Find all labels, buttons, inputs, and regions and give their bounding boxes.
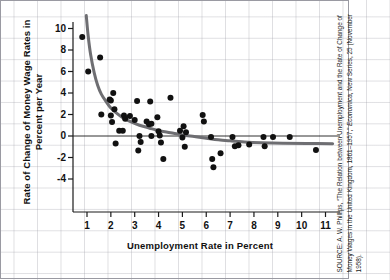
scatter-series <box>79 34 319 170</box>
data-point <box>210 164 216 170</box>
data-point <box>167 95 173 101</box>
data-point <box>85 69 91 75</box>
data-point <box>127 113 133 119</box>
x-tick-label: 10 <box>293 220 311 231</box>
y-tick-label: -4 <box>44 173 66 184</box>
data-point <box>134 98 140 104</box>
x-tick-label: 2 <box>102 220 120 231</box>
data-point <box>79 34 85 40</box>
data-point <box>113 141 119 147</box>
data-point <box>287 134 293 140</box>
x-tick-label: 1 <box>78 220 96 231</box>
data-point <box>132 117 138 123</box>
data-point <box>108 113 114 119</box>
data-point <box>262 143 268 149</box>
data-point <box>181 123 187 129</box>
data-point <box>229 134 235 140</box>
data-point <box>160 156 166 162</box>
data-point <box>270 134 276 140</box>
data-point <box>235 142 241 148</box>
x-tick-label: 7 <box>221 220 239 231</box>
x-axis-title: Unemployment Rate in Percent <box>74 240 326 251</box>
y-axis-title: Rate of Change of Money Wage Rates in Pe… <box>21 17 45 207</box>
source-journal: Economica <box>345 94 352 126</box>
x-tick-label: 9 <box>269 220 287 231</box>
y-tick-label: 8 <box>44 44 66 55</box>
data-point <box>148 121 154 127</box>
data-point <box>98 112 104 118</box>
data-point <box>183 129 189 135</box>
x-tick-label: 8 <box>245 220 263 231</box>
y-tick-label: 2 <box>44 109 66 120</box>
data-point <box>182 144 188 150</box>
x-tick-label: 3 <box>126 220 144 231</box>
data-point <box>148 133 154 139</box>
data-point <box>200 112 206 118</box>
x-tick-label: 11 <box>317 220 335 231</box>
data-point <box>179 135 185 141</box>
data-point <box>154 114 160 120</box>
data-point <box>201 118 207 124</box>
data-point <box>313 147 319 153</box>
data-point <box>260 134 266 140</box>
data-point <box>97 55 103 61</box>
data-point <box>108 98 114 104</box>
data-point <box>136 133 142 139</box>
data-point <box>111 106 117 112</box>
data-point <box>218 150 224 156</box>
y-tick-label: -2 <box>44 152 66 163</box>
data-point <box>147 99 153 105</box>
phillips-curve-figure: 1086420-2-41234567891011 Rate of Change … <box>0 0 390 280</box>
data-point <box>208 134 214 140</box>
x-tick-label: 6 <box>197 220 215 231</box>
data-point <box>135 148 141 154</box>
data-point <box>109 119 115 125</box>
y-tick-label: 0 <box>44 130 66 141</box>
x-tick-label: 5 <box>173 220 191 231</box>
plot-area: 1086420-2-41234567891011 <box>0 0 349 280</box>
x-tick-label: 4 <box>150 220 168 231</box>
source-citation: SOURCE: A. W. Phillips, “The Relation be… <box>335 10 364 272</box>
y-tick-label: 4 <box>44 87 66 98</box>
data-point <box>209 156 215 162</box>
data-point <box>158 139 164 145</box>
y-tick-label: 10 <box>44 23 66 34</box>
data-point <box>246 142 252 148</box>
data-point <box>110 90 116 96</box>
fitted-phillips-curve <box>86 16 332 144</box>
data-point <box>120 128 126 134</box>
y-tick-label: 6 <box>44 66 66 77</box>
data-point <box>157 132 163 138</box>
data-point <box>138 139 144 145</box>
